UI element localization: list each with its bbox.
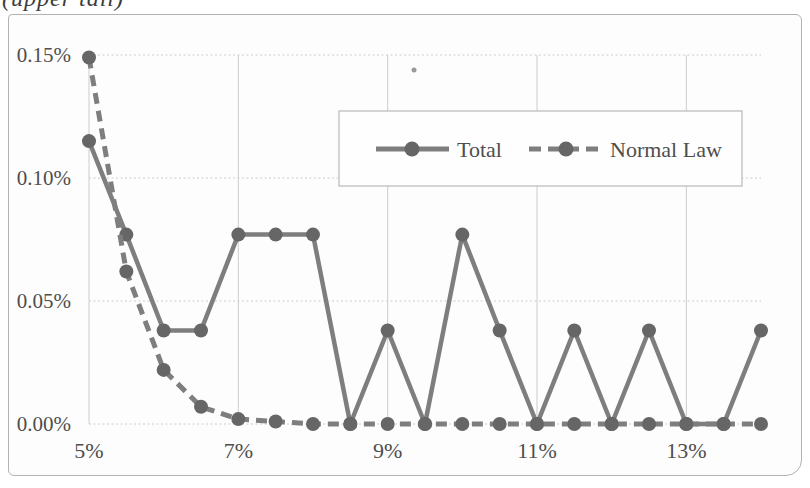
data-point-total: [567, 324, 581, 338]
chart-canvas: 0.00%0.05%0.10%0.15%5%7%9%11%13%TotalNor…: [9, 15, 801, 475]
data-point-total: [194, 324, 208, 338]
legend-label-normal-law: Normal Law: [610, 137, 722, 162]
data-point-total: [269, 228, 283, 242]
data-point-normal-law: [493, 417, 507, 431]
data-point-total: [455, 228, 469, 242]
data-point-total: [381, 324, 395, 338]
data-point-total: [231, 228, 245, 242]
data-point-normal-law: [194, 400, 208, 414]
data-point-normal-law: [679, 417, 693, 431]
data-point-normal-law: [82, 50, 96, 64]
legend-marker-total: [405, 142, 420, 157]
data-point-normal-law: [157, 363, 171, 377]
data-point-total: [642, 324, 656, 338]
chart-caption-upper-tail: (upper tail): [2, 0, 124, 12]
x-axis-tick-label: 9%: [373, 438, 402, 463]
data-point-normal-law: [754, 417, 768, 431]
data-point-normal-law: [455, 417, 469, 431]
data-point-total: [82, 134, 96, 148]
data-point-normal-law: [530, 417, 544, 431]
data-point-normal-law: [119, 264, 133, 278]
data-point-normal-law: [605, 417, 619, 431]
x-axis-tick-label: 11%: [517, 438, 557, 463]
y-axis-tick-label: 0.05%: [17, 289, 71, 313]
data-point-normal-law: [306, 417, 320, 431]
legend-label-total: Total: [457, 137, 502, 162]
y-axis-tick-label: 0.00%: [17, 412, 71, 436]
data-point-normal-law: [418, 417, 432, 431]
data-point-normal-law: [343, 417, 357, 431]
scanned-chart-page: (upper tail) 0.00%0.05%0.10%0.15%5%7%9%1…: [0, 0, 810, 488]
y-axis-tick-label: 0.10%: [17, 166, 71, 190]
x-axis-tick-label: 5%: [74, 438, 103, 463]
data-point-total: [493, 324, 507, 338]
scan-speck-artifact: [412, 68, 417, 73]
data-point-total: [754, 324, 768, 338]
legend-marker-normal-law: [559, 142, 574, 157]
x-axis-tick-label: 7%: [224, 438, 253, 463]
chart-frame: 0.00%0.05%0.10%0.15%5%7%9%11%13%TotalNor…: [8, 14, 802, 476]
data-point-normal-law: [642, 417, 656, 431]
x-axis-tick-label: 13%: [666, 438, 706, 463]
data-point-normal-law: [231, 412, 245, 426]
data-point-normal-law: [567, 417, 581, 431]
data-point-normal-law: [269, 415, 283, 429]
y-axis-tick-label: 0.15%: [17, 43, 71, 67]
data-point-total: [157, 324, 171, 338]
data-point-normal-law: [717, 417, 731, 431]
data-point-normal-law: [381, 417, 395, 431]
data-point-total: [306, 228, 320, 242]
